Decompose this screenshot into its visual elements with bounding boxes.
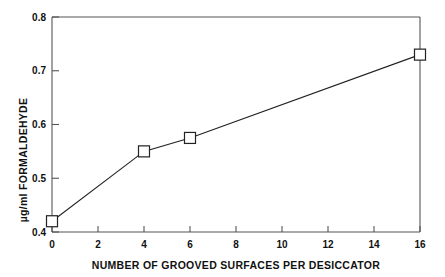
x-tick-label-3: 6: [187, 239, 193, 250]
y-tick-label-4: 0.4: [32, 227, 46, 238]
data-point-marker: [415, 49, 426, 60]
x-tick-label-0: 0: [49, 239, 55, 250]
x-axis-ticks: [52, 226, 420, 232]
x-tick-label-4: 8: [233, 239, 239, 250]
data-point-marker: [47, 216, 58, 227]
x-tick-label-1: 2: [95, 239, 101, 250]
x-tick-label-2: 4: [141, 239, 147, 250]
y-axis-ticks: [52, 17, 59, 232]
y-tick-label-1: 0.7: [32, 65, 46, 76]
x-tick-label-7: 14: [368, 239, 380, 250]
x-tick-label-8: 16: [414, 239, 426, 250]
y-axis-title: µg/ml FORMALDEHYDE: [17, 98, 29, 223]
y-axis-tick-labels: 0.8 0.7 0.6 0.5 0.4: [32, 12, 46, 238]
x-axis-tick-labels: 0 2 4 6 8 10 12 14 16: [49, 239, 426, 250]
plot-frame: [52, 17, 420, 232]
data-point-marker: [139, 146, 150, 157]
y-tick-label-0: 0.8: [32, 12, 46, 23]
x-axis-title: NUMBER OF GROOVED SURFACES PER DESICCATO…: [92, 259, 381, 271]
x-tick-label-6: 12: [322, 239, 334, 250]
chart-container: 0.8 0.7 0.6 0.5 0.4 0 2 4 6 8 10 12: [0, 0, 445, 277]
data-series-formaldehyde: [47, 49, 426, 227]
series-line: [52, 55, 420, 222]
x-tick-label-5: 10: [276, 239, 288, 250]
series-markers: [47, 49, 426, 227]
data-point-marker: [185, 132, 196, 143]
line-chart: 0.8 0.7 0.6 0.5 0.4 0 2 4 6 8 10 12: [0, 0, 445, 277]
y-tick-label-3: 0.5: [32, 173, 46, 184]
y-tick-label-2: 0.6: [32, 119, 46, 130]
